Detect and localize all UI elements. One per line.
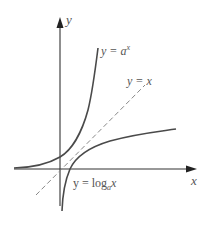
exponential-curve — [14, 48, 98, 168]
logarithm-curve — [62, 129, 176, 211]
x-axis-arrow-icon — [186, 166, 197, 173]
logarithm-label-arg: x — [110, 176, 117, 190]
logarithm-label-prefix: y = log — [73, 176, 107, 190]
y-axis-label: y — [64, 12, 72, 27]
y-axis-arrow-icon — [57, 17, 64, 28]
exponential-label-exp: x — [125, 43, 130, 52]
exponential-label-prefix: y = — [100, 44, 120, 58]
function-diagram: y x y = ax y = x y = logax — [0, 0, 210, 231]
identity-label: y = x — [126, 74, 152, 88]
x-axis-label: x — [190, 173, 197, 188]
logarithm-label: y = logax — [73, 176, 117, 192]
exponential-label: y = ax — [100, 43, 130, 58]
